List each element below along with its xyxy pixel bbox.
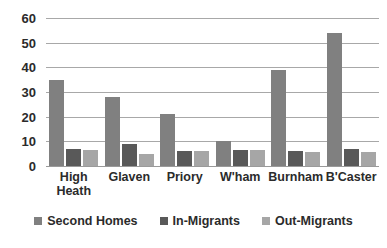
- y-axis-tick-label: 0: [29, 159, 36, 174]
- y-axis: 6050403020100: [0, 18, 42, 166]
- x-axis-category-label: High Heath: [46, 170, 102, 208]
- bar: [105, 97, 120, 166]
- y-axis-tick-label: 50: [22, 35, 36, 50]
- legend-label: Out-Migrants: [275, 214, 353, 228]
- bar-group: [324, 18, 380, 166]
- legend-swatch-icon: [160, 217, 168, 225]
- axis-baseline: [46, 166, 379, 167]
- bar-group: [268, 18, 324, 166]
- bar: [288, 151, 303, 166]
- bar: [194, 151, 209, 166]
- legend-item[interactable]: In-Migrants: [160, 214, 240, 228]
- x-axis: High HeathGlavenPrioryW'hamBurnhamB'Cast…: [46, 170, 379, 208]
- x-axis-category-label: Priory: [157, 170, 213, 208]
- y-axis-tick-label: 30: [22, 85, 36, 100]
- bar-group: [102, 18, 158, 166]
- legend-item[interactable]: Out-Migrants: [262, 214, 353, 228]
- y-axis-tick-label: 10: [22, 134, 36, 149]
- bar: [305, 152, 320, 166]
- bar: [122, 144, 137, 166]
- legend-item[interactable]: Second Homes: [34, 214, 137, 228]
- bar: [361, 152, 376, 166]
- bar-groups: [46, 18, 379, 166]
- x-axis-category-label: B'Caster: [324, 170, 380, 208]
- x-axis-category-label: W'ham: [213, 170, 269, 208]
- legend-label: Second Homes: [47, 214, 137, 228]
- x-axis-category-label: Glaven: [102, 170, 158, 208]
- bar: [344, 149, 359, 166]
- bar: [160, 114, 175, 166]
- bar: [177, 151, 192, 166]
- legend-label: In-Migrants: [173, 214, 240, 228]
- legend: Second HomesIn-MigrantsOut-Migrants: [0, 214, 387, 228]
- bar: [139, 154, 154, 166]
- bar: [83, 150, 98, 166]
- y-axis-tick-label: 40: [22, 60, 36, 75]
- y-axis-tick-label: 60: [22, 11, 36, 26]
- bar-group: [213, 18, 269, 166]
- y-axis-tick-label: 20: [22, 109, 36, 124]
- bar: [250, 150, 265, 166]
- plot-area: [46, 18, 379, 166]
- bar: [271, 70, 286, 166]
- bar: [216, 141, 231, 166]
- legend-swatch-icon: [262, 217, 270, 225]
- bar: [49, 80, 64, 166]
- x-axis-category-label: Burnham: [268, 170, 324, 208]
- bar-chart: 6050403020100 High HeathGlavenPrioryW'ha…: [0, 0, 387, 248]
- bar-group: [157, 18, 213, 166]
- bar: [233, 150, 248, 166]
- bar: [327, 33, 342, 166]
- bar: [66, 149, 81, 166]
- legend-swatch-icon: [34, 217, 42, 225]
- bar-group: [46, 18, 102, 166]
